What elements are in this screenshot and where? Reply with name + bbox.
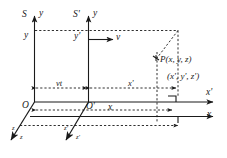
label-axis-x-prime: x' bbox=[206, 88, 212, 98]
label-origin-o: O bbox=[22, 101, 29, 111]
label-height-y-prime: y' bbox=[74, 32, 80, 42]
label-axis-y-s-prime: y bbox=[93, 9, 97, 19]
label-velocity: v bbox=[116, 33, 120, 43]
label-frame-s-prime: S' bbox=[73, 10, 80, 20]
label-origin-o-prime: O' bbox=[86, 102, 95, 112]
label-point-p-primed: (x', y', z') bbox=[167, 72, 199, 81]
label-axis-y-s: y bbox=[39, 9, 43, 19]
label-axis-z-s-lower: z bbox=[20, 134, 23, 141]
label-distance-vt: vt bbox=[56, 79, 62, 88]
label-distance-x-prime: x' bbox=[128, 79, 134, 88]
label-axis-x: x bbox=[207, 110, 211, 120]
figure-canvas: S y S' y y y' v vt x' O O' x x' x z z z'… bbox=[0, 0, 227, 158]
label-axis-z-s-upper: z bbox=[12, 125, 15, 132]
label-point-p: P(x, y, z) bbox=[160, 55, 192, 64]
corner-mark-upper bbox=[168, 96, 176, 102]
label-distance-x: x bbox=[108, 103, 112, 113]
corner-mark-lower bbox=[170, 117, 178, 124]
label-height-y: y bbox=[24, 31, 28, 41]
label-axis-z-prime-lower: z' bbox=[76, 134, 80, 141]
point-p-marker bbox=[153, 55, 159, 61]
label-axis-z-prime-upper: z' bbox=[64, 125, 68, 132]
label-frame-s: S bbox=[22, 10, 27, 20]
